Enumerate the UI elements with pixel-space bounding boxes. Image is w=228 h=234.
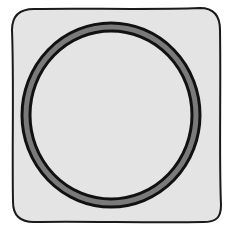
- circle-in-square-icon: [0, 0, 228, 234]
- icon-canvas: [0, 0, 228, 234]
- rounded-square-tile: [12, 8, 221, 222]
